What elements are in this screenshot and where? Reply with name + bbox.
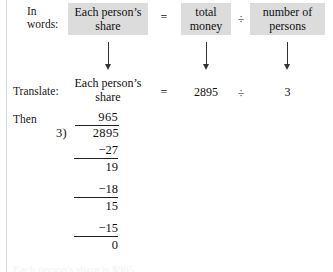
translate-division-sign: ÷ [234, 86, 248, 100]
translate-number-of-persons-value: 3 [250, 85, 325, 99]
long-division-remainder-1: 19 [74, 160, 118, 175]
long-division-subtract-1: −27 [74, 143, 118, 158]
long-division-subtract-3: −15 [74, 221, 118, 236]
long-division-rule-1 [74, 158, 118, 159]
in-words-label: In words: [27, 5, 58, 31]
long-division-rule-2 [74, 197, 118, 198]
translate-equals-sign: = [155, 85, 173, 99]
long-division-divisor: 3) [56, 126, 76, 141]
translate-total-money-value: 2895 [181, 85, 231, 99]
long-division-dividend: 2895 [76, 126, 119, 141]
word-box-total-money: total money [181, 3, 231, 35]
long-division-remainder-3: 0 [74, 238, 118, 253]
long-division-rule-3 [74, 236, 118, 237]
word-box-number-of-persons: number of persons [250, 3, 325, 35]
division-sign-words: ÷ [234, 12, 248, 26]
cut-off-caption: Each person's share is $965. [13, 263, 313, 272]
arrow-shaft [108, 42, 109, 66]
arrow-head [105, 64, 111, 70]
long-division-quotient: 965 [74, 110, 118, 125]
then-label: Then [13, 113, 37, 126]
long-division-remainder-2: 15 [74, 199, 118, 214]
equals-sign-words: = [155, 10, 173, 24]
figure-canvas: In words: Each person’s share = total mo… [0, 0, 333, 272]
arrow-head [203, 64, 209, 70]
translate-each-persons-share: Each person’s share [68, 76, 148, 104]
arrow-shaft [206, 42, 207, 66]
long-division-subtract-2: −18 [74, 182, 118, 197]
page-left-rule [6, 0, 7, 272]
translate-label: Translate: [13, 85, 59, 98]
arrow-shaft [287, 42, 288, 66]
arrow-head [284, 64, 290, 70]
word-box-each-persons-share: Each person’s share [68, 3, 148, 35]
